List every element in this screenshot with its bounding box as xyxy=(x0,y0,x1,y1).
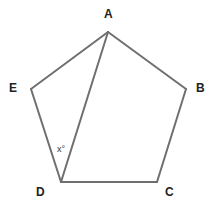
vertex-label-d: D xyxy=(36,185,45,199)
edge-de xyxy=(31,89,61,182)
edge-bc xyxy=(157,89,186,182)
edge-ab xyxy=(108,32,186,89)
vertex-label-b: B xyxy=(196,81,205,95)
edge-ea xyxy=(31,32,108,89)
vertex-label-e: E xyxy=(9,81,17,95)
vertex-label-c: C xyxy=(165,185,174,199)
angle-label-x: x° xyxy=(57,144,66,154)
pentagon-diagram: A B C D E x° xyxy=(0,0,218,207)
vertex-label-a: A xyxy=(104,7,113,21)
diagonal-ad xyxy=(61,32,108,182)
